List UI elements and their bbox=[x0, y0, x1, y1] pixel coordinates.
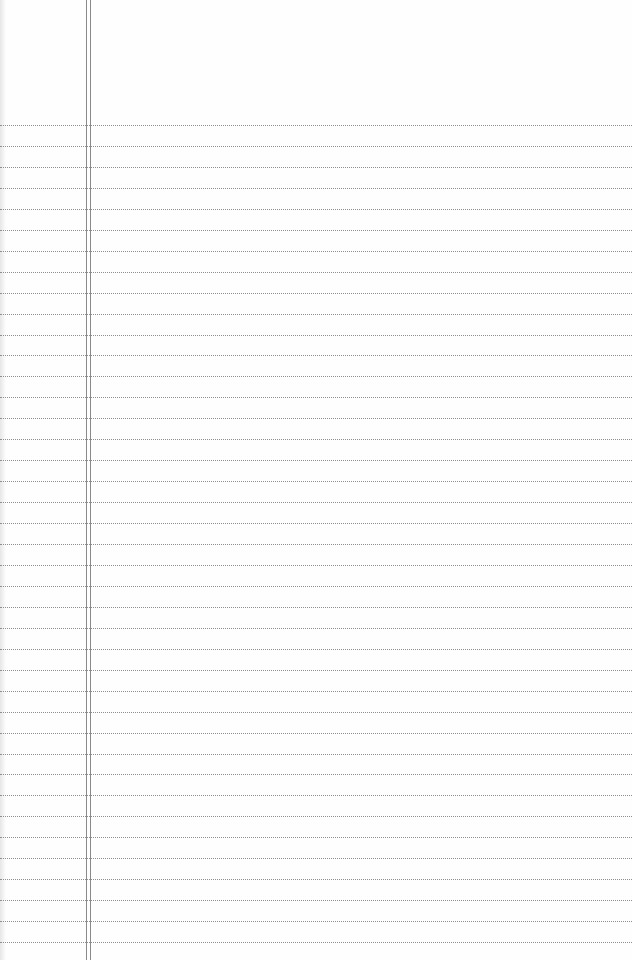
ruled-line bbox=[0, 837, 632, 838]
margin-line bbox=[90, 0, 91, 960]
ruled-line bbox=[0, 816, 632, 817]
ruled-line bbox=[0, 921, 632, 922]
ruled-line bbox=[0, 544, 632, 545]
ruled-line bbox=[0, 376, 632, 377]
ruled-line bbox=[0, 167, 632, 168]
ruled-line bbox=[0, 628, 632, 629]
ruled-line bbox=[0, 670, 632, 671]
ruled-line bbox=[0, 272, 632, 273]
ruled-line bbox=[0, 900, 632, 901]
ruled-line bbox=[0, 502, 632, 503]
ruled-line bbox=[0, 397, 632, 398]
margin-line bbox=[86, 0, 87, 960]
ruled-line bbox=[0, 188, 632, 189]
notepad-paper bbox=[0, 0, 632, 960]
ruled-line bbox=[0, 565, 632, 566]
ruled-line bbox=[0, 649, 632, 650]
ruled-line bbox=[0, 293, 632, 294]
ruled-line bbox=[0, 439, 632, 440]
ruled-line bbox=[0, 355, 632, 356]
ruled-line bbox=[0, 586, 632, 587]
ruled-line bbox=[0, 209, 632, 210]
ruled-line bbox=[0, 858, 632, 859]
ruled-line bbox=[0, 754, 632, 755]
ruled-line bbox=[0, 733, 632, 734]
ruled-line bbox=[0, 879, 632, 880]
ruled-line bbox=[0, 418, 632, 419]
ruled-line bbox=[0, 460, 632, 461]
ruled-line bbox=[0, 607, 632, 608]
ruled-line bbox=[0, 314, 632, 315]
ruled-line bbox=[0, 691, 632, 692]
ruled-line bbox=[0, 712, 632, 713]
ruled-line bbox=[0, 230, 632, 231]
ruled-line bbox=[0, 795, 632, 796]
ruled-line bbox=[0, 942, 632, 943]
ruled-line bbox=[0, 125, 632, 126]
ruled-line bbox=[0, 481, 632, 482]
ruled-line bbox=[0, 335, 632, 336]
ruled-line bbox=[0, 774, 632, 775]
ruled-line bbox=[0, 146, 632, 147]
ruled-line bbox=[0, 523, 632, 524]
ruled-line bbox=[0, 251, 632, 252]
